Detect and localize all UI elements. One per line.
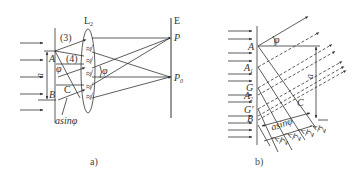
point-b-label-b: B xyxy=(247,113,253,124)
svg-text:2: 2 xyxy=(278,137,290,145)
diffraction-diagram: ≉ ≉ ≉ ≉ ≉ L2 E P P0 (3) (4) A B C a φ φ … xyxy=(0,0,360,178)
point-a1-label: A1 xyxy=(243,62,253,74)
point-c-label: C xyxy=(64,84,71,95)
point-a-label: A xyxy=(48,53,56,64)
point-c-label-b: C xyxy=(297,97,304,108)
path-diff-label-b: asinφ xyxy=(269,115,294,132)
angle-phi-label: φ xyxy=(56,63,62,74)
width-a-label-b: a xyxy=(304,74,315,79)
svg-text:2: 2 xyxy=(304,129,316,137)
path-difference-label: asinφ xyxy=(55,115,78,126)
point-p-label: P xyxy=(173,32,180,43)
point-b-label: B xyxy=(49,89,55,100)
width-a-label: a xyxy=(34,73,45,78)
ray-label-4: (4) xyxy=(66,53,78,65)
lens-label: L2 xyxy=(84,15,93,27)
svg-text:≉: ≉ xyxy=(86,55,93,66)
screen-label: E xyxy=(174,15,180,26)
ray-label-3: (3) xyxy=(60,32,72,44)
point-a-label-b: A xyxy=(247,41,255,52)
angle-phi-lens-label: φ xyxy=(102,65,108,76)
svg-text:2: 2 xyxy=(316,125,328,133)
caption-a: a) xyxy=(90,156,98,168)
angle-phi-label-b: φ xyxy=(274,34,280,45)
point-p0-label: P0 xyxy=(173,72,183,84)
svg-text:≉: ≉ xyxy=(86,91,93,102)
caption-b: b) xyxy=(255,156,263,168)
figure-a xyxy=(20,18,171,123)
